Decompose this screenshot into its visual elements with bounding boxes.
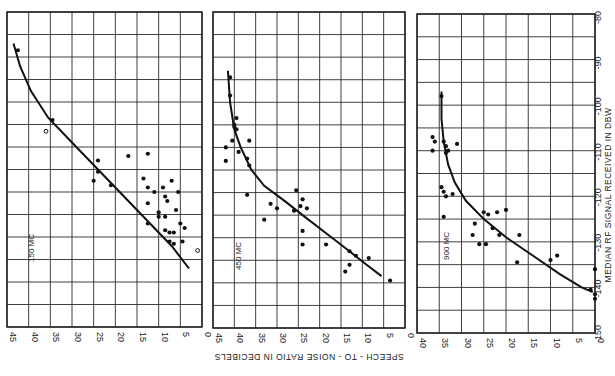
data-point — [343, 269, 347, 273]
panel-label: 900 MC — [442, 232, 451, 260]
sn-tick-label: 25 — [299, 333, 309, 343]
data-point — [430, 135, 434, 139]
data-point — [228, 93, 232, 97]
sn-tick-label: 20 — [321, 333, 331, 343]
data-point — [442, 140, 446, 144]
data-point — [141, 176, 145, 180]
data-point — [515, 260, 519, 264]
data-point — [504, 208, 508, 212]
data-point — [224, 145, 228, 149]
chart-panels: 454035302520151050150 MC4540353025201510… — [7, 12, 606, 348]
data-point — [157, 215, 161, 219]
sn-tick-label: 5 — [574, 338, 584, 343]
data-point — [178, 221, 182, 225]
data-point — [247, 139, 251, 143]
sn-tick-label: 15 — [342, 333, 352, 343]
sn-tick-label: 5 — [385, 333, 395, 338]
data-point — [161, 185, 165, 189]
data-point — [170, 179, 174, 183]
fit-curve — [228, 71, 382, 276]
data-point — [183, 226, 187, 230]
sn-tick-label: 30 — [278, 333, 288, 343]
panel-label: 150 MC — [27, 234, 36, 262]
data-point — [234, 127, 238, 131]
data-point — [126, 154, 130, 158]
data-point — [301, 197, 305, 201]
rf-tick-label: -100 — [593, 97, 603, 115]
data-point — [593, 267, 597, 271]
data-point — [167, 239, 171, 243]
sn-tick-label: 10 — [363, 333, 373, 343]
sn-tick-label: 20 — [507, 338, 517, 348]
rf-tick-label: -150 — [593, 325, 603, 343]
sn-axis-title: SPEECH - TO - NOISE RATIO IN DECIBELS — [214, 352, 403, 362]
data-point — [497, 233, 501, 237]
rf-axis-title: MEDIAN RF SIGNAL RECEIVED IN DBW — [603, 108, 613, 283]
data-point — [234, 116, 238, 120]
panel-3: 4035302520151050900 MC — [417, 14, 606, 348]
data-point — [347, 249, 351, 253]
panel-2: 454035302520151050450 MC — [213, 12, 416, 343]
data-point — [482, 210, 486, 214]
data-point — [275, 206, 279, 210]
data-point — [455, 142, 459, 146]
data-point — [548, 258, 552, 262]
sn-tick-label: 15 — [138, 332, 148, 342]
data-point — [439, 94, 443, 98]
rf-tick-label: -130 — [593, 234, 603, 252]
data-point — [247, 163, 251, 167]
data-point — [301, 242, 305, 246]
data-point — [245, 157, 249, 161]
data-point — [163, 228, 167, 232]
sn-tick-label: 35 — [257, 333, 267, 343]
data-point — [367, 256, 371, 260]
sn-tick-label: 0 — [203, 332, 213, 337]
data-point — [444, 194, 448, 198]
data-point — [451, 192, 455, 196]
sn-tick-label: 5 — [181, 332, 191, 337]
data-point — [484, 242, 488, 246]
data-point — [163, 194, 167, 198]
data-point — [146, 221, 150, 225]
sn-tick-label: 30 — [73, 332, 83, 342]
rf-tick-label: -140 — [593, 279, 603, 297]
data-point — [477, 242, 481, 246]
data-point — [305, 206, 309, 210]
sn-tick-label: 40 — [235, 333, 245, 343]
data-point — [172, 230, 176, 234]
rf-tick-label: -90 — [593, 57, 603, 70]
data-point — [16, 48, 20, 52]
data-point — [262, 218, 266, 222]
rf-tick-label: -110 — [593, 143, 603, 160]
data-point — [174, 208, 178, 212]
data-point — [165, 199, 169, 203]
data-point — [269, 202, 273, 206]
data-point — [430, 149, 434, 153]
rotated-scatter-figure: 454035302520151050150 MC4540353025201510… — [0, 0, 615, 376]
sn-tick-label: 40 — [418, 338, 428, 348]
data-point — [146, 185, 150, 189]
sn-tick-label: 45 — [214, 333, 224, 343]
data-point — [237, 150, 241, 154]
data-point — [471, 233, 475, 237]
data-point — [146, 152, 150, 156]
data-point — [228, 75, 232, 79]
data-point — [172, 242, 176, 246]
data-point — [439, 185, 443, 189]
data-point — [388, 279, 392, 283]
sn-tick-label: 30 — [463, 338, 473, 348]
data-point — [301, 229, 305, 233]
sn-tick-label: 25 — [95, 332, 105, 342]
data-point — [347, 263, 351, 267]
data-point — [442, 190, 446, 194]
data-point — [50, 118, 54, 122]
data-point — [44, 129, 48, 133]
data-point — [442, 215, 446, 219]
data-point — [180, 239, 184, 243]
data-point — [163, 215, 167, 219]
data-point — [245, 193, 249, 197]
fit-curve — [14, 44, 190, 269]
data-point — [517, 233, 521, 237]
data-point — [294, 188, 298, 192]
data-point — [354, 254, 358, 258]
